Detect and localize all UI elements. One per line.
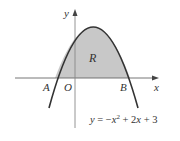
origin-label: O <box>64 81 72 93</box>
curve-equation: y = −x2 + 2x + 3 <box>89 113 157 125</box>
eq-mid: + 2 <box>120 114 136 125</box>
y-axis-arrow-icon <box>73 9 78 16</box>
eq-equals: = − <box>95 114 112 125</box>
x-axis-arrow-icon <box>152 76 159 81</box>
point-b-label: B <box>120 81 127 93</box>
point-a-label: A <box>42 81 50 93</box>
x-axis-label: x <box>153 81 159 93</box>
parabola-diagram: y x A O B R y = −x2 + 2x + 3 <box>0 0 180 141</box>
eq-end: + 3 <box>141 114 157 125</box>
y-axis-label: y <box>63 7 69 19</box>
region-r-label: R <box>88 51 97 65</box>
